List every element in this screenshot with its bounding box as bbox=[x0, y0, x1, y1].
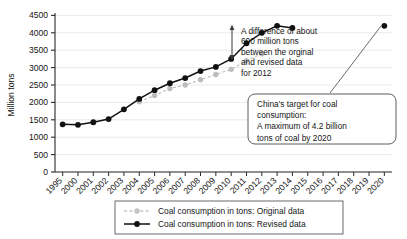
data-point bbox=[90, 119, 96, 125]
data-point bbox=[213, 64, 219, 70]
y-tick-label: 2000 bbox=[29, 97, 48, 107]
legend-swatch-marker-original bbox=[134, 208, 139, 213]
legend-label-original: Coal consumption in tons: Original data bbox=[158, 206, 305, 216]
data-point bbox=[198, 77, 203, 82]
y-tick-label: 1500 bbox=[29, 115, 48, 125]
data-point bbox=[106, 116, 112, 122]
y-tick-label: 1000 bbox=[29, 132, 48, 142]
coal-consumption-line-chart: 0 500 1000 1500 2000 2500 3000 3500 4000… bbox=[0, 0, 407, 239]
data-point bbox=[167, 80, 173, 86]
data-point bbox=[198, 68, 204, 74]
legend: Coal consumption in tons: Original data … bbox=[115, 201, 343, 234]
difference-annotation-line: for 2012 bbox=[241, 68, 272, 78]
callout-text-line: tons of coal by 2020 bbox=[257, 133, 332, 143]
y-tick-label: 0 bbox=[43, 167, 48, 177]
data-point bbox=[75, 122, 81, 128]
data-point bbox=[60, 121, 66, 127]
y-tick-label: 4500 bbox=[29, 10, 48, 20]
data-point bbox=[152, 87, 158, 93]
data-point bbox=[381, 23, 387, 29]
data-point bbox=[136, 96, 142, 102]
data-point bbox=[228, 67, 233, 72]
china-target-callout: China's target for coalconsumption:A max… bbox=[248, 94, 396, 144]
data-point bbox=[183, 82, 188, 87]
data-point bbox=[213, 72, 218, 77]
data-point bbox=[182, 75, 188, 81]
y-tick-label: 3000 bbox=[29, 63, 48, 73]
y-axis-title: Million tons bbox=[6, 74, 16, 117]
y-tick-label: 3500 bbox=[29, 45, 48, 55]
legend-label-revised: Coal consumption in tons: Revised data bbox=[158, 219, 306, 229]
y-tick-label: 4000 bbox=[29, 28, 48, 38]
callout-text-line: A maximum of 4.2 billion bbox=[257, 121, 347, 131]
difference-annotation-line: 600 million tons bbox=[241, 36, 299, 46]
y-tick-label: 500 bbox=[34, 150, 49, 160]
data-point bbox=[121, 106, 127, 112]
difference-annotation-line: A difference of about bbox=[241, 26, 318, 36]
data-point bbox=[167, 86, 172, 91]
callout-text-line: consumption: bbox=[257, 110, 306, 120]
series-target-point bbox=[381, 23, 387, 29]
chart-figure: 0 500 1000 1500 2000 2500 3000 3500 4000… bbox=[0, 0, 407, 239]
data-point bbox=[152, 93, 157, 98]
callout-text-line: China's target for coal bbox=[257, 99, 338, 109]
y-tick-label: 2500 bbox=[29, 80, 48, 90]
legend-swatch-marker-revised bbox=[134, 221, 140, 227]
difference-annotation-line: and revised data bbox=[241, 57, 303, 67]
difference-annotation-line: between the orginal bbox=[241, 47, 314, 57]
